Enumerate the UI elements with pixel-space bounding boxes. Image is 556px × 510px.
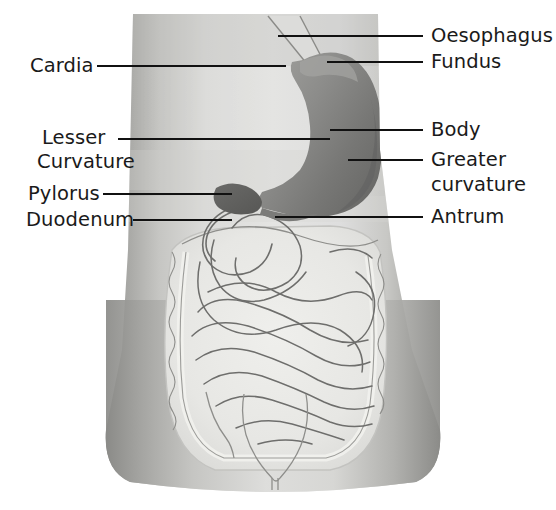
label-fundus: Fundus bbox=[431, 52, 501, 72]
label-oesophagus: Oesophagus bbox=[431, 26, 553, 46]
label-cardia: Cardia bbox=[30, 56, 94, 76]
label-body: Body bbox=[431, 120, 481, 140]
label-duodenum: Duodenum bbox=[26, 210, 134, 230]
label-lesser-curvature: Lesser bbox=[42, 128, 105, 148]
label-greater-curvature: Greater bbox=[431, 150, 506, 170]
diagram-canvas: Cardia Lesser Curvature Pylorus Duodenum… bbox=[0, 0, 556, 510]
label-pylorus: Pylorus bbox=[28, 184, 100, 204]
large-intestine bbox=[165, 226, 387, 470]
label-lesser-curvature-line2: Curvature bbox=[37, 152, 135, 172]
label-antrum: Antrum bbox=[431, 207, 504, 227]
label-greater-curvature-line2: curvature bbox=[431, 175, 526, 195]
